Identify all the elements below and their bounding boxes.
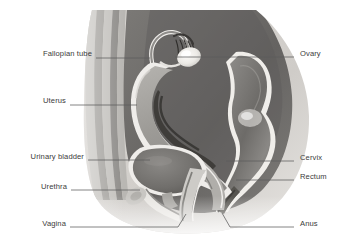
label-vagina: Vagina [0,220,66,228]
label-rectum: Rectum [300,173,327,181]
label-uterus: Uterus [0,97,66,105]
label-cervix: Cervix [300,154,322,162]
label-fallopian-tube: Fallopian tube [0,50,92,58]
label-ovary: Ovary [300,50,321,58]
anatomy-figure: Fallopian tube Uterus Urinary bladder Ur… [0,0,342,249]
label-urinary-bladder: Urinary bladder [0,153,84,161]
label-anus: Anus [300,220,318,228]
label-urethra: Urethra [0,183,67,191]
anatomy-illustration [0,0,342,249]
